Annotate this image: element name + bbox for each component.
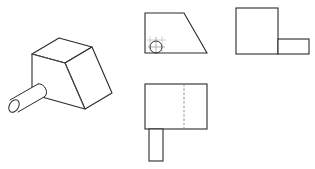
technical-drawing <box>0 0 315 169</box>
drawing-canvas <box>0 0 315 169</box>
